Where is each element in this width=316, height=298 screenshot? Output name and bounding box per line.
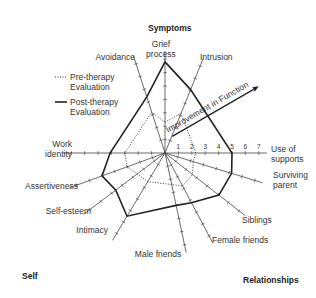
axis-label: Intrusion <box>200 52 233 62</box>
axis-label: Griefprocess <box>146 39 176 59</box>
legend-label-post: Post-therapyEvaluation <box>70 97 119 117</box>
legend: Pre-therapyEvaluation Post-therapyEvalua… <box>55 72 119 117</box>
axis-label: Workidentity <box>45 139 73 159</box>
tick-labels: 1234567 <box>177 143 261 150</box>
tick-label: 3 <box>203 143 207 150</box>
tick-label: 6 <box>244 143 248 150</box>
axis-label: Female friends <box>212 235 268 245</box>
axis-line <box>84 153 165 214</box>
tick-label: 5 <box>230 143 234 150</box>
axis-line <box>165 153 186 253</box>
axis-label: Siblings <box>242 215 272 225</box>
axis-label: Use ofsupports <box>271 144 304 164</box>
axis-line <box>165 153 262 183</box>
axis-label: Intimacy <box>76 225 108 235</box>
axis-label: Avoidance <box>95 52 135 62</box>
axis-tick <box>183 244 187 245</box>
improvement-label: Improvement in Function <box>164 79 250 135</box>
tick-label: 7 <box>257 143 261 150</box>
axis-label: Assertiveness <box>25 181 78 191</box>
improvement-arrow <box>172 89 253 136</box>
axis-label: Survivingparent <box>273 170 308 190</box>
axis-tick <box>172 192 176 193</box>
section-label-symptoms: Symptoms <box>148 23 192 33</box>
section-label-self: Self <box>22 271 38 281</box>
axis-line <box>165 153 245 216</box>
axis-line <box>113 153 165 240</box>
tick-label: 2 <box>190 143 194 150</box>
series-layer <box>102 62 232 216</box>
tick-label: 4 <box>217 143 221 150</box>
axis-line <box>69 153 165 188</box>
axis-tick <box>180 231 184 232</box>
tick-label: 1 <box>177 143 181 150</box>
axis-label: Self-esteem <box>46 206 91 216</box>
axis-tick <box>169 179 173 180</box>
legend-label-pre: Pre-therapyEvaluation <box>70 72 115 92</box>
series-post-therapy <box>102 62 232 216</box>
section-label-relationships: Relationships <box>243 275 299 285</box>
improvement-annotation: Improvement in Function <box>164 75 260 139</box>
improvement-arrowhead <box>252 84 260 91</box>
radar-chart: 1234567 GriefprocessIntrusionUse ofsuppo… <box>0 0 316 298</box>
axis-tick <box>166 166 170 167</box>
axis-label: Male friends <box>135 249 181 259</box>
axis-tick <box>177 218 181 219</box>
